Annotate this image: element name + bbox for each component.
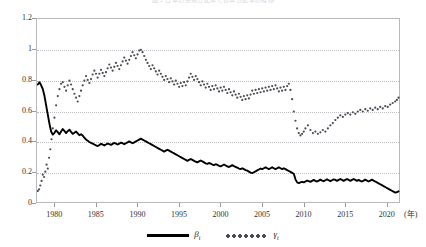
series-marker-γ_t bbox=[80, 90, 82, 92]
series-marker-γ_t bbox=[196, 78, 198, 80]
series-β_t bbox=[38, 82, 399, 192]
series-marker-γ_t bbox=[268, 86, 270, 88]
series-marker-γ_t bbox=[276, 87, 278, 89]
series-marker-γ_t bbox=[238, 93, 240, 95]
series-marker-γ_t bbox=[377, 108, 379, 110]
series-marker-γ_t bbox=[205, 87, 207, 89]
x-tick-mark bbox=[54, 203, 55, 207]
series-marker-γ_t bbox=[77, 100, 79, 102]
series-marker-γ_t bbox=[322, 129, 324, 131]
series-marker-γ_t bbox=[396, 99, 398, 101]
series-marker-γ_t bbox=[312, 132, 314, 134]
chart-figure: 図 2 日本の労働分配率と資本分配率の推移 00.20.40.60.811.2 … bbox=[0, 0, 426, 247]
series-marker-γ_t bbox=[307, 124, 309, 126]
series-marker-γ_t bbox=[201, 80, 203, 82]
series-marker-γ_t bbox=[140, 49, 142, 51]
series-marker-γ_t bbox=[130, 55, 132, 57]
series-marker-γ_t bbox=[279, 87, 281, 89]
series-marker-γ_t bbox=[193, 79, 195, 81]
series-marker-γ_t bbox=[266, 90, 268, 92]
series-marker-γ_t bbox=[150, 68, 152, 70]
series-marker-γ_t bbox=[123, 56, 125, 58]
series-marker-γ_t bbox=[120, 64, 122, 66]
series-marker-γ_t bbox=[97, 76, 99, 78]
x-tick-label: 1990 bbox=[117, 210, 157, 219]
series-marker-γ_t bbox=[216, 87, 218, 89]
series-marker-γ_t bbox=[55, 104, 57, 106]
series-marker-γ_t bbox=[195, 75, 197, 77]
series-marker-γ_t bbox=[374, 107, 376, 109]
series-marker-γ_t bbox=[68, 80, 70, 82]
series-marker-γ_t bbox=[176, 83, 178, 85]
y-tick-mark bbox=[32, 80, 36, 81]
series-marker-γ_t bbox=[362, 110, 364, 112]
legend-swatch-dotted-icon bbox=[226, 234, 268, 238]
series-marker-γ_t bbox=[85, 75, 87, 77]
x-tick-label: 2020 bbox=[367, 210, 407, 219]
legend-item-beta: βt bbox=[147, 229, 200, 243]
series-marker-γ_t bbox=[73, 93, 75, 95]
series-marker-γ_t bbox=[230, 91, 232, 93]
series-marker-γ_t bbox=[332, 122, 334, 124]
series-marker-γ_t bbox=[122, 60, 124, 62]
x-tick-label: 1980 bbox=[34, 210, 74, 219]
y-tick-mark bbox=[32, 49, 36, 50]
series-marker-γ_t bbox=[240, 96, 242, 98]
series-marker-γ_t bbox=[160, 73, 162, 75]
series-marker-γ_t bbox=[269, 89, 271, 91]
series-marker-γ_t bbox=[349, 113, 351, 115]
chart-legend: βt γt bbox=[0, 228, 426, 244]
x-tick-mark bbox=[262, 203, 263, 207]
series-marker-γ_t bbox=[112, 70, 114, 72]
series-marker-γ_t bbox=[359, 109, 361, 111]
series-marker-γ_t bbox=[329, 124, 331, 126]
series-marker-γ_t bbox=[299, 134, 301, 136]
series-marker-γ_t bbox=[226, 92, 228, 94]
series-marker-γ_t bbox=[327, 127, 329, 129]
series-marker-γ_t bbox=[314, 130, 316, 132]
series-marker-γ_t bbox=[141, 51, 143, 53]
series-marker-γ_t bbox=[165, 75, 167, 77]
x-tick-label: 1985 bbox=[76, 210, 116, 219]
series-marker-γ_t bbox=[231, 94, 233, 96]
series-marker-γ_t bbox=[387, 106, 389, 108]
series-marker-γ_t bbox=[342, 116, 344, 118]
series-marker-γ_t bbox=[67, 84, 69, 86]
series-marker-γ_t bbox=[384, 105, 386, 107]
series-marker-γ_t bbox=[347, 112, 349, 114]
x-tick-label: 2010 bbox=[284, 210, 324, 219]
series-marker-γ_t bbox=[218, 90, 220, 92]
series-marker-γ_t bbox=[397, 97, 399, 99]
x-tick-mark bbox=[220, 203, 221, 207]
series-marker-γ_t bbox=[223, 86, 225, 88]
series-marker-γ_t bbox=[211, 85, 213, 87]
series-marker-γ_t bbox=[198, 81, 200, 83]
series-marker-γ_t bbox=[235, 93, 237, 95]
series-marker-γ_t bbox=[57, 95, 59, 97]
series-marker-γ_t bbox=[148, 65, 150, 67]
series-marker-γ_t bbox=[372, 109, 374, 111]
series-marker-γ_t bbox=[75, 97, 77, 99]
series-marker-γ_t bbox=[283, 86, 285, 88]
series-marker-γ_t bbox=[289, 89, 291, 91]
series-marker-γ_t bbox=[53, 117, 55, 119]
series-marker-γ_t bbox=[298, 132, 300, 134]
series-marker-γ_t bbox=[208, 86, 210, 88]
series-marker-γ_t bbox=[107, 67, 109, 69]
series-marker-γ_t bbox=[58, 88, 60, 90]
series-marker-γ_t bbox=[228, 88, 230, 90]
legend-swatch-solid-icon bbox=[147, 234, 189, 237]
series-marker-γ_t bbox=[133, 54, 135, 56]
series-marker-γ_t bbox=[163, 79, 165, 81]
series-marker-γ_t bbox=[364, 108, 366, 110]
legend-label-beta: βt bbox=[194, 229, 200, 243]
series-marker-γ_t bbox=[339, 114, 341, 116]
y-tick-mark bbox=[32, 111, 36, 112]
series-marker-γ_t bbox=[394, 100, 396, 102]
series-marker-γ_t bbox=[271, 85, 273, 87]
series-marker-γ_t bbox=[309, 129, 311, 131]
series-marker-γ_t bbox=[251, 90, 253, 92]
series-marker-γ_t bbox=[317, 133, 319, 135]
series-marker-γ_t bbox=[48, 157, 50, 159]
series-marker-γ_t bbox=[186, 80, 188, 82]
